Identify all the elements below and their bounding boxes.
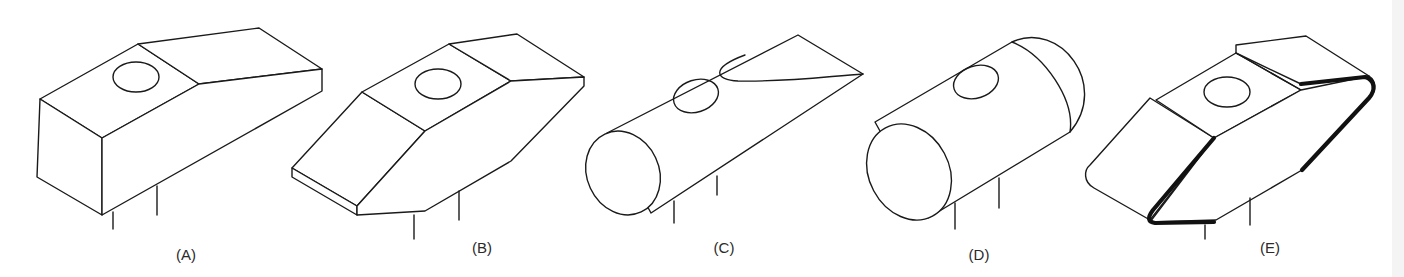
- diagram-canvas: (A) (B) (C) (D): [0, 0, 1404, 277]
- label-e: (E): [1260, 239, 1280, 256]
- shape-b: (B): [292, 34, 584, 256]
- shape-a: (A): [37, 28, 322, 263]
- label-c: (C): [714, 239, 735, 256]
- label-d: (D): [969, 246, 990, 263]
- shape-e: (E): [1086, 36, 1375, 256]
- shape-c: (C): [572, 35, 863, 256]
- label-a: (A): [176, 246, 196, 263]
- label-b: (B): [472, 239, 492, 256]
- shape-d: (D): [850, 38, 1084, 263]
